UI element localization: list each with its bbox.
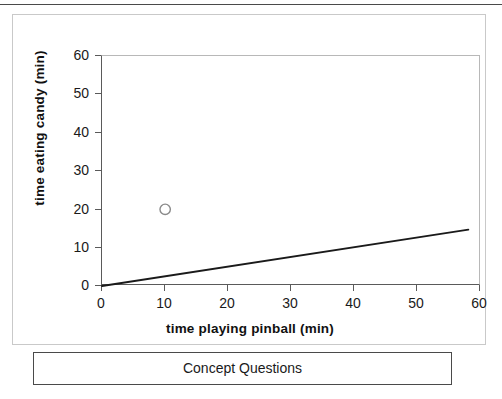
y-axis-tick-label-0: 0 (49, 278, 89, 292)
y-axis-label-0-wrap: 0 (49, 278, 89, 292)
y-axis-label-60-wrap: 60 (49, 48, 89, 62)
y-axis-tick-label-10: 10 (49, 240, 89, 254)
x-axis-label-10-wrap: 10 (144, 295, 184, 311)
page-canvas: 60 50 40 30 20 10 0 0 10 (0, 0, 502, 399)
x-axis-label-30-wrap: 30 (270, 295, 310, 311)
x-axis-tick-label-10: 10 (144, 295, 184, 311)
x-axis-tick-label-0: 0 (81, 295, 121, 311)
x-axis-label-0-wrap: 0 (81, 295, 121, 311)
x-axis-label-50-wrap: 50 (396, 295, 436, 311)
y-axis-tick-label-30: 30 (49, 163, 89, 177)
x-axis-tick-label-50: 50 (396, 295, 436, 311)
chart-frame: 60 50 40 30 20 10 0 0 10 (12, 14, 486, 345)
y-axis-label-10-wrap: 10 (49, 240, 89, 254)
x-axis-tick-label-60: 60 (459, 295, 499, 311)
x-axis-label-20-wrap: 20 (207, 295, 247, 311)
y-axis-tick-label-20: 20 (49, 202, 89, 216)
y-axis-label-50-wrap: 50 (49, 86, 89, 100)
data-point-marker (160, 204, 170, 214)
plot-area (101, 55, 480, 285)
trend-line (102, 230, 468, 286)
x-axis-tick-label-20: 20 (207, 295, 247, 311)
x-axis-label-60-wrap: 60 (459, 295, 499, 311)
y-axis-tick-label-50: 50 (49, 86, 89, 100)
y-axis-title-box: time eating candy (min) (30, 13, 50, 243)
x-axis-title: time playing pinball (min) (13, 321, 487, 336)
y-axis-label-30-wrap: 30 (49, 163, 89, 177)
y-axis-title: time eating candy (min) (30, 13, 50, 243)
caption-text: Concept Questions (34, 353, 451, 384)
y-axis-tick-label-40: 40 (49, 125, 89, 139)
y-axis-tick-label-60: 60 (49, 48, 89, 62)
plot-graphics (102, 56, 481, 286)
x-axis-tick-label-40: 40 (333, 295, 373, 311)
x-axis-label-40-wrap: 40 (333, 295, 373, 311)
y-axis-label-40-wrap: 40 (49, 125, 89, 139)
caption-box: Concept Questions (33, 352, 452, 385)
x-axis-tick-label-30: 30 (270, 295, 310, 311)
y-axis-label-20-wrap: 20 (49, 202, 89, 216)
top-divider-rule (0, 4, 502, 5)
